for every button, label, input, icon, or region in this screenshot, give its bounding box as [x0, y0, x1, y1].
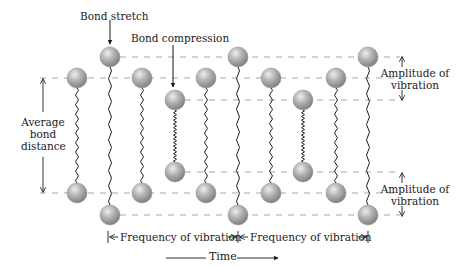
spring-8	[302, 110, 305, 162]
spring-9	[335, 88, 338, 183]
average-bond-distance-label: Average bond distance	[21, 116, 65, 152]
spring-7	[270, 88, 273, 183]
atom-spheres	[67, 47, 378, 225]
atom-2-top	[100, 47, 120, 67]
time-label: Time	[209, 251, 237, 263]
atom-3-top	[132, 68, 152, 88]
atom-3-bottom	[132, 183, 152, 203]
atom-7-bottom	[261, 183, 281, 203]
atom-7-top	[261, 68, 281, 88]
atom-9-bottom	[326, 183, 346, 203]
average-label-line-3: distance	[21, 140, 65, 152]
amplitude-bottom-line-2: vibration	[375, 195, 455, 207]
spring-3	[141, 88, 144, 183]
atom-9-top	[326, 68, 346, 88]
atom-8-top	[293, 90, 313, 110]
bond-vibration-diagram	[0, 0, 459, 270]
atom-2-bottom	[100, 205, 120, 225]
bond-compression-label: Bond compression	[131, 32, 229, 44]
bond-springs	[76, 67, 370, 205]
spring-6	[237, 67, 240, 205]
atom-1-top	[67, 68, 87, 88]
atom-8-bottom	[293, 162, 313, 182]
spring-10	[367, 67, 370, 205]
frequency-label-2: Frequency of vibration	[250, 231, 372, 243]
spring-4	[174, 110, 177, 162]
atom-6-top	[228, 47, 248, 67]
atom-6-bottom	[228, 205, 248, 225]
average-label-line-2: bond	[21, 128, 65, 140]
amplitude-bottom-label: Amplitude of vibration	[375, 183, 455, 207]
atom-5-bottom	[196, 183, 216, 203]
frequency-label-1: Frequency of vibration	[120, 231, 242, 243]
spring-2	[109, 67, 112, 205]
atom-10-bottom	[358, 205, 378, 225]
amplitude-top-line-1: Amplitude of	[375, 67, 455, 79]
atom-4-top	[165, 90, 185, 110]
amplitude-top-line-2: vibration	[375, 79, 455, 91]
atom-4-bottom	[165, 162, 185, 182]
atom-5-top	[196, 68, 216, 88]
bond-stretch-label: Bond stretch	[80, 10, 149, 22]
atom-1-bottom	[67, 183, 87, 203]
amplitude-bottom-line-1: Amplitude of	[375, 183, 455, 195]
amplitude-top-label: Amplitude of vibration	[375, 67, 455, 91]
spring-5	[205, 88, 208, 183]
atom-10-top	[358, 47, 378, 67]
average-label-line-1: Average	[21, 116, 65, 128]
spring-1	[76, 88, 79, 183]
